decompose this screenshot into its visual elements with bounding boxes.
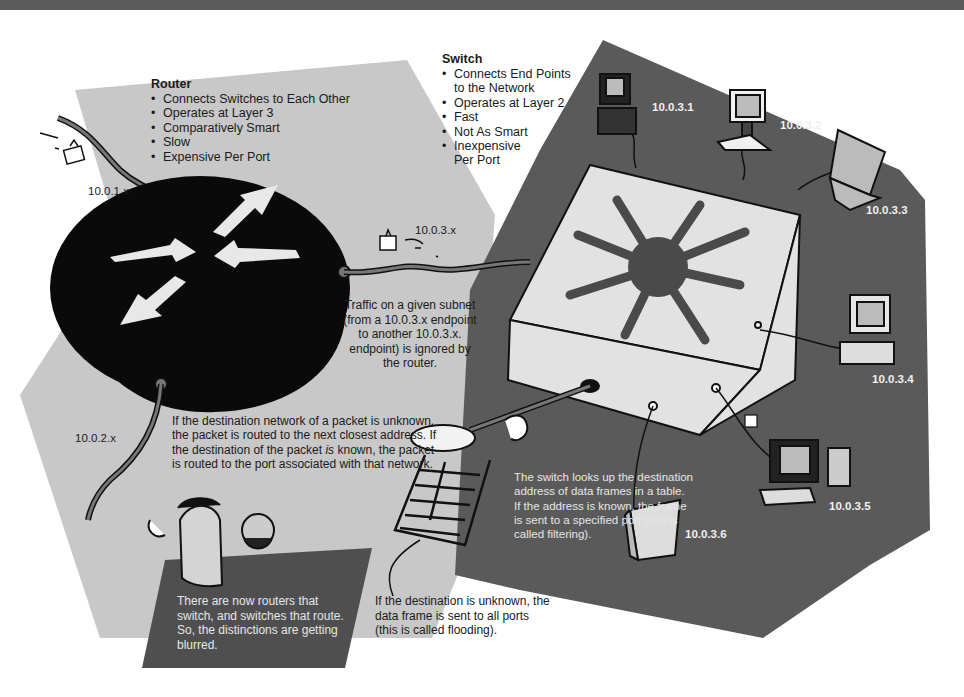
router-bullet: Expensive Per Port [151,150,381,164]
router-bullets: Connects Switches to Each Other Operates… [151,92,381,164]
device-ip-label: 10.0.3.4 [872,373,914,385]
router-bullet: Comparatively Smart [151,121,381,135]
switch-lookup-note: The switch looks up the destination addr… [514,470,694,541]
router-bullet: Slow [151,135,381,149]
subnet-traffic-note: Traffic on a given subnet (from a 10.0.3… [340,298,480,371]
router-title: Router [151,77,381,92]
switch-bullet: Fast [442,110,577,124]
packet-icon [40,133,85,164]
device-ip-label: 10.0.3.2 [780,119,822,131]
device-ip-label: 10.0.3.3 [866,204,908,216]
router-bullet: Operates at Layer 3 [151,106,381,120]
routing-note: If the destination network of a packet i… [172,414,442,471]
desktop-tower-icon [598,74,636,134]
switch-bullet: Inexpensive Per Port [442,139,526,168]
device-ip-label: 10.0.3.1 [652,101,694,113]
switch-bullet: Not As Smart [442,125,577,139]
switch-description: Switch Connects End Points to the Networ… [442,52,577,168]
device-ip-label: 10.0.3.5 [829,500,871,512]
flooding-note: If the destination is unknown, the data … [375,594,555,638]
packet-icon [745,415,757,427]
switch-bullet: Operates at Layer 2 [442,96,577,110]
switch-title: Switch [442,52,577,67]
subnet-label-10-0-1: 10.0.1.x [88,185,129,197]
switch-bullet: Connects End Points to the Network [442,67,577,96]
router-description: Router Connects Switches to Each Other O… [151,77,381,164]
router-bullet: Connects Switches to Each Other [151,92,381,106]
laptop-icon [830,130,885,210]
blurred-note: There are now routers that switch, and s… [177,594,357,652]
subnet-label-10-0-2: 10.0.2.x [75,432,116,444]
switch-bullets: Connects End Points to the Network Opera… [442,67,577,168]
subnet-label-10-0-3: 10.0.3.x [415,224,456,236]
